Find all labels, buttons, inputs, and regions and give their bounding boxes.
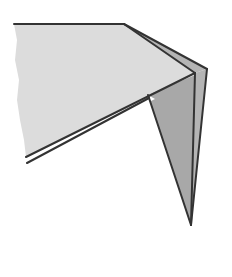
fold-illustration [0,0,232,277]
hanging-flap [148,75,195,225]
origami-fold-diagram [0,0,232,277]
